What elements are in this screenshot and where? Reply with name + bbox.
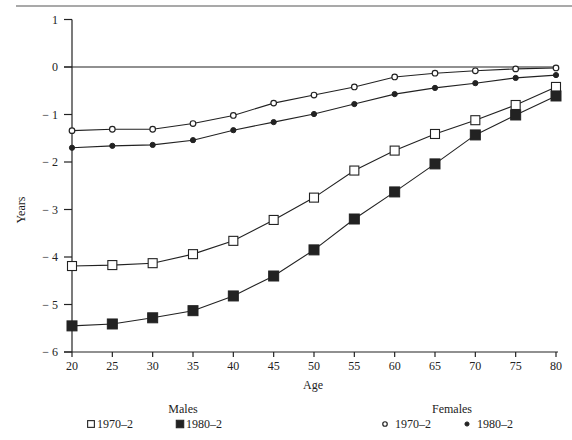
y-axis-title: Years	[14, 196, 28, 223]
x-tick-label: 55	[348, 359, 360, 373]
filled-circle-marker	[231, 128, 236, 133]
open-circle-marker	[392, 74, 398, 80]
x-tick-label: 75	[510, 359, 522, 373]
filled-square-marker	[228, 291, 238, 301]
open-square-marker	[229, 236, 238, 245]
y-tick-label: 0	[52, 60, 58, 74]
open-circle-marker	[271, 100, 277, 106]
y-tick-label: − 4	[42, 250, 58, 264]
filled-circle-marker	[465, 422, 469, 426]
y-tick-label: − 6	[42, 345, 58, 359]
x-tick-label: 25	[106, 359, 118, 373]
filled-square-marker	[390, 187, 400, 197]
open-square-marker	[511, 101, 520, 110]
series-open-square	[68, 82, 561, 270]
legend-group-females: Females1970–21980–2	[383, 402, 513, 431]
x-tick-label: 45	[268, 359, 280, 373]
x-tick-label: 65	[429, 359, 441, 373]
open-square-marker	[431, 129, 440, 138]
open-square-marker	[88, 421, 95, 428]
open-circle-marker	[352, 84, 358, 90]
legend-item-label: 1980–2	[477, 417, 513, 431]
x-tick-label: 30	[147, 359, 159, 373]
filled-circle-marker	[473, 81, 478, 86]
legend-group-title: Females	[432, 402, 472, 416]
open-circle-marker	[553, 65, 559, 71]
open-square-marker	[552, 82, 561, 91]
x-tick-label: 35	[187, 359, 199, 373]
open-circle-marker	[150, 126, 156, 132]
filled-square-marker	[551, 91, 561, 101]
open-square-marker	[471, 116, 480, 125]
legend-item-label: 1970–2	[395, 417, 431, 431]
legend-item-label: 1970–2	[97, 417, 133, 431]
plot-series	[67, 65, 561, 331]
series-line	[72, 96, 556, 326]
open-circle-marker	[190, 121, 196, 127]
legend-group-males: Males1970–21980–2	[88, 402, 222, 431]
filled-circle-marker	[352, 101, 357, 106]
filled-circle-marker	[432, 85, 437, 90]
open-square-marker	[108, 261, 117, 270]
y-tick-label: − 2	[42, 155, 58, 169]
open-square-marker	[310, 193, 319, 202]
x-axis-title: Age	[303, 378, 323, 392]
filled-square-marker	[430, 159, 440, 169]
x-tick-label: 40	[227, 359, 239, 373]
filled-square-marker	[176, 420, 184, 428]
filled-circle-marker	[271, 120, 276, 125]
open-circle-marker	[231, 113, 237, 119]
filled-circle-marker	[150, 142, 155, 147]
filled-square-marker	[269, 271, 279, 281]
filled-circle-marker	[190, 138, 195, 143]
series-line	[72, 68, 556, 131]
y-tick-label: − 1	[42, 108, 58, 122]
open-circle-marker	[383, 422, 387, 426]
filled-square-marker	[309, 245, 319, 255]
x-tick-label: 20	[66, 359, 78, 373]
axes: 10− 1− 2− 3− 4− 5− 620253035404550556065…	[42, 13, 562, 374]
filled-square-marker	[188, 306, 198, 316]
y-tick-label: − 3	[42, 203, 58, 217]
open-square-marker	[68, 262, 77, 271]
open-circle-marker	[110, 126, 116, 132]
open-circle-marker	[311, 92, 317, 98]
y-tick-label: − 5	[42, 298, 58, 312]
filled-circle-marker	[311, 111, 316, 116]
legend-item-label: 1980–2	[186, 417, 222, 431]
open-square-marker	[350, 166, 359, 175]
open-square-marker	[189, 250, 198, 259]
filled-square-marker	[470, 130, 480, 140]
x-tick-label: 80	[550, 359, 562, 373]
chart: 10− 1− 2− 3− 4− 5− 620253035404550556065…	[0, 0, 572, 440]
open-circle-marker	[473, 68, 479, 74]
filled-square-marker	[511, 110, 521, 120]
filled-square-marker	[107, 319, 117, 329]
filled-circle-marker	[513, 75, 518, 80]
filled-square-marker	[349, 214, 359, 224]
series-filled-circle	[69, 72, 558, 150]
open-circle-marker	[432, 70, 438, 76]
open-circle-marker	[69, 128, 75, 134]
x-tick-label: 70	[469, 359, 481, 373]
filled-circle-marker	[392, 91, 397, 96]
filled-square-marker	[67, 321, 77, 331]
x-tick-label: 50	[308, 359, 320, 373]
open-square-marker	[269, 215, 278, 224]
legend-group-title: Males	[168, 402, 198, 416]
series-filled-square	[67, 91, 561, 331]
series-open-circle	[69, 65, 559, 133]
filled-circle-marker	[110, 143, 115, 148]
open-circle-marker	[513, 66, 519, 72]
filled-square-marker	[148, 313, 158, 323]
x-tick-label: 60	[389, 359, 401, 373]
y-tick-label: 1	[52, 13, 58, 27]
filled-circle-marker	[69, 145, 74, 150]
open-square-marker	[148, 259, 157, 268]
open-square-marker	[390, 146, 399, 155]
filled-circle-marker	[553, 72, 558, 77]
legend: Males1970–21980–2Females1970–21980–2	[88, 402, 513, 431]
